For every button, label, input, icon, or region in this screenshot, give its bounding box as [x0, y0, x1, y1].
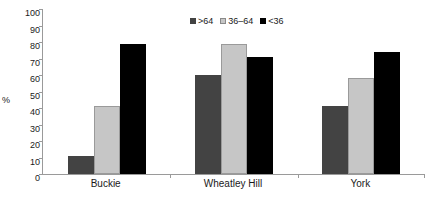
bar-wheatley-hill-under36	[247, 57, 273, 174]
legend-label-under36: <36	[268, 16, 283, 26]
y-tick-label: 50	[12, 92, 40, 101]
x-category-label-buckie: Buckie	[42, 178, 169, 189]
y-tick-label: 30	[12, 125, 40, 134]
bar-wheatley-hill-36-64	[221, 44, 247, 174]
legend-item-over64: >64	[190, 16, 213, 26]
y-tick-label: 70	[12, 59, 40, 68]
y-axis-label: %	[2, 95, 10, 105]
legend-item-36-64: 36–64	[220, 16, 253, 26]
bar-group-wheatley-hill	[170, 9, 297, 174]
legend-item-under36: <36	[260, 16, 283, 26]
bar-group-buckie	[43, 9, 170, 174]
plot-area	[42, 9, 425, 175]
legend-swatch-icon	[260, 18, 266, 24]
legend-swatch-icon	[190, 18, 196, 24]
bar-chart: % 100 90 80 70 60 50 40 30 20 10 0	[0, 0, 438, 204]
bar-york-over64	[322, 106, 348, 174]
y-tick-label: 60	[12, 75, 40, 84]
y-tick-label: 40	[12, 108, 40, 117]
y-tick-label: 100	[12, 9, 40, 18]
bar-york-36-64	[348, 78, 374, 174]
x-tick-mark	[424, 174, 425, 178]
legend-swatch-icon	[220, 18, 226, 24]
bar-wheatley-hill-over64	[195, 75, 221, 174]
chart-legend: >64 36–64 <36	[190, 16, 284, 26]
y-axis-tick-labels: 100 90 80 70 60 50 40 30 20 10 0	[12, 4, 40, 180]
bar-groups	[43, 9, 425, 174]
x-category-label-york: York	[297, 178, 424, 189]
legend-label-over64: >64	[198, 16, 213, 26]
bar-group-york	[298, 9, 425, 174]
y-tick-label: 80	[12, 42, 40, 51]
x-axis-category-labels: Buckie Wheatley Hill York	[42, 178, 424, 189]
x-category-label-wheatley-hill: Wheatley Hill	[169, 178, 296, 189]
bar-buckie-over64	[68, 156, 94, 174]
y-tick-label: 90	[12, 26, 40, 35]
y-tick-label: 0	[12, 174, 40, 183]
bar-buckie-36-64	[94, 106, 120, 174]
y-tick-label: 10	[12, 158, 40, 167]
bar-york-under36	[374, 52, 400, 174]
y-tick-mark	[39, 174, 43, 175]
bar-buckie-under36	[120, 44, 146, 174]
legend-label-36-64: 36–64	[228, 16, 253, 26]
y-tick-label: 20	[12, 141, 40, 150]
